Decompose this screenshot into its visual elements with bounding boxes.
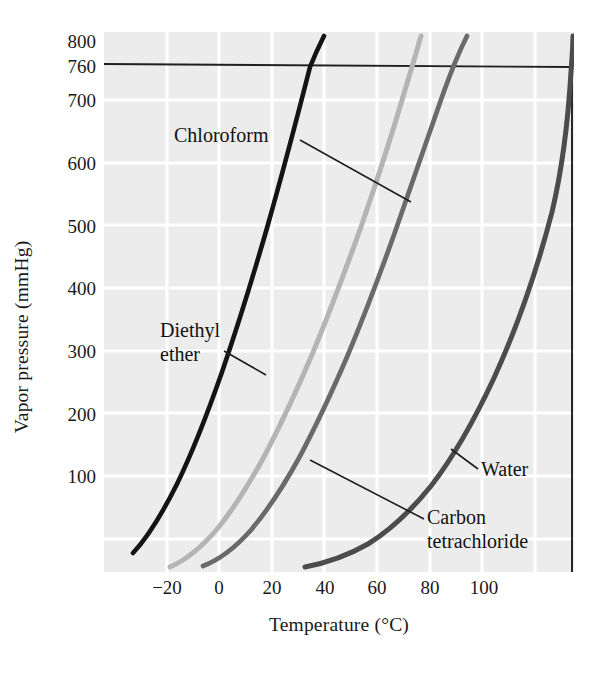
y-tick-100: 100 xyxy=(50,467,96,486)
y-tick-700: 700 xyxy=(50,91,96,110)
y-tick-300: 300 xyxy=(50,342,96,361)
x-tick-0: 0 xyxy=(214,578,224,597)
vapor-pressure-chart: Vapor pressure (mmHg) 800 760 700 600 50… xyxy=(0,0,606,674)
annotation-chloroform: Chloroform xyxy=(174,123,268,147)
x-tick-60: 60 xyxy=(368,578,387,597)
y-tick-400: 400 xyxy=(50,279,96,298)
x-tick-80: 80 xyxy=(421,578,440,597)
plot-area xyxy=(104,32,574,572)
annotation-diethyl-ether: Diethyl ether xyxy=(160,318,220,367)
x-tick-20: 20 xyxy=(263,578,282,597)
vertical-gridlines xyxy=(167,32,535,572)
annotation-diethyl-ether-line1: Diethyl xyxy=(160,318,220,342)
y-tick-800: 800 xyxy=(50,32,96,51)
y-tick-760: 760 xyxy=(50,57,96,76)
y-tick-500: 500 xyxy=(50,217,96,236)
plot-canvas xyxy=(104,32,574,572)
x-tick-40: 40 xyxy=(316,578,335,597)
x-axis-title: Temperature (°C) xyxy=(104,614,574,636)
y-tick-600: 600 xyxy=(50,154,96,173)
annotation-diethyl-ether-line2: ether xyxy=(160,342,220,366)
annotation-carbon-tetrachloride-line1: Carbon xyxy=(427,505,528,529)
x-tick-minus20: −20 xyxy=(152,578,182,597)
curve-water xyxy=(305,36,573,567)
y-axis-title: Vapor pressure (mmHg) xyxy=(0,0,44,674)
x-axis-tick-labels: −20 0 20 40 60 80 100 xyxy=(0,578,606,608)
x-tick-100: 100 xyxy=(470,578,499,597)
y-axis-tick-labels: 800 760 700 600 500 400 300 200 100 xyxy=(50,0,96,674)
reference-line-760 xyxy=(104,64,572,67)
y-tick-200: 200 xyxy=(50,405,96,424)
annotation-water: Water xyxy=(481,457,528,481)
annotation-carbon-tetrachloride: Carbon tetrachloride xyxy=(427,505,528,554)
annotation-carbon-tetrachloride-line2: tetrachloride xyxy=(427,529,528,553)
